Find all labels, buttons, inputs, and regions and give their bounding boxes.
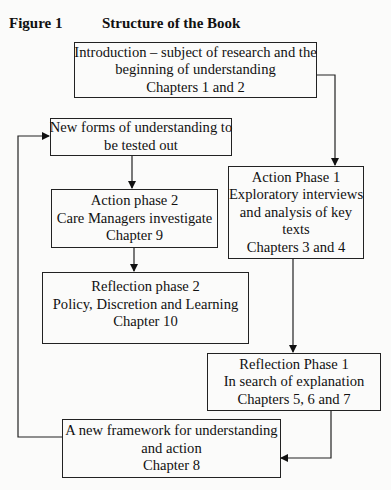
node-text: and action <box>141 440 201 458</box>
node-text: texts <box>282 221 310 239</box>
node-text: be tested out <box>104 137 178 155</box>
node-text: New forms of understanding to <box>50 119 232 137</box>
node-text: Action phase 2 <box>91 192 179 210</box>
node-text: and analysis of key <box>240 204 352 222</box>
node-reflection-phase-1: Reflection Phase 1 In search of explanat… <box>207 353 381 411</box>
node-action-phase-2: Action phase 2 Care Managers investigate… <box>51 189 218 248</box>
node-text: Introduction – subject of research and t… <box>74 44 316 62</box>
node-text: Reflection phase 2 <box>91 278 200 296</box>
node-reflection-phase-2: Reflection phase 2 Policy, Discretion an… <box>42 272 249 344</box>
node-text: A new framework for understanding <box>65 422 277 440</box>
edge-reflection1-to-framework <box>281 410 331 458</box>
node-new-framework: A new framework for understanding and ac… <box>62 419 281 478</box>
node-text: Chapters 1 and 2 <box>146 79 245 97</box>
node-text: Exploratory interviews <box>229 186 363 204</box>
node-new-forms: New forms of understanding to be tested … <box>50 118 232 156</box>
node-text: Chapter 9 <box>106 227 163 245</box>
node-introduction: Introduction – subject of research and t… <box>74 42 317 98</box>
node-text: Reflection Phase 1 <box>239 356 348 374</box>
node-text: Policy, Discretion and Learning <box>53 296 238 314</box>
node-text: Chapter 10 <box>113 313 177 331</box>
node-text: Chapters 5, 6 and 7 <box>237 391 350 409</box>
edge-intro-to-action1 <box>316 75 335 165</box>
node-text: Chapter 8 <box>143 457 200 475</box>
node-text: In search of explanation <box>224 373 365 391</box>
node-text: Care Managers investigate <box>57 210 213 228</box>
node-text: beginning of understanding <box>115 61 276 79</box>
node-text: Action Phase 1 <box>252 169 340 187</box>
node-action-phase-1: Action Phase 1 Exploratory interviews an… <box>228 166 364 259</box>
node-text: Chapters 3 and 4 <box>247 239 346 257</box>
